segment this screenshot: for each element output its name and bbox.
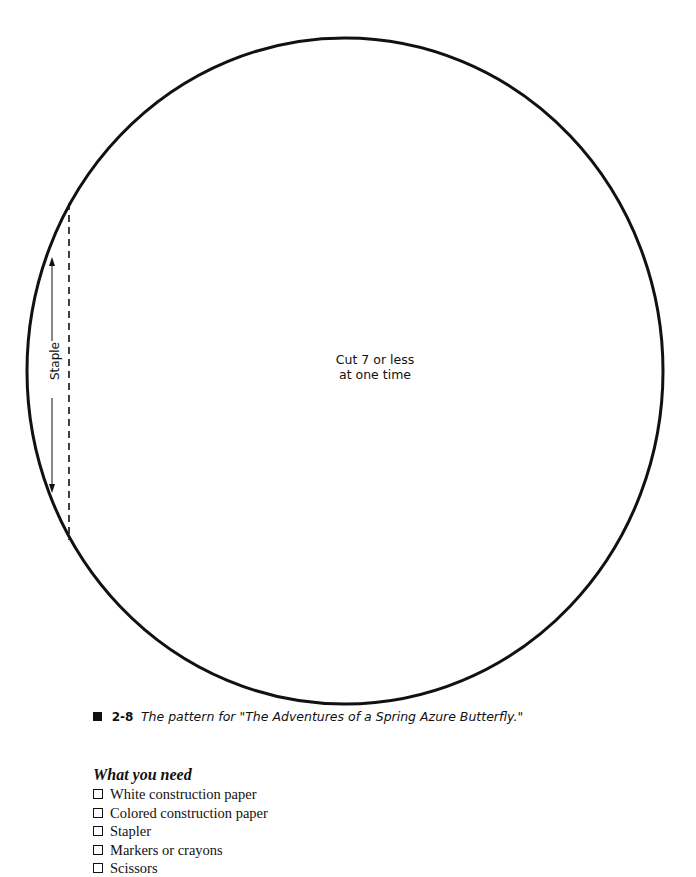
square-bullet-icon (93, 712, 102, 721)
checkbox-icon[interactable] (93, 863, 103, 873)
figure-caption: 2-8 The pattern for "The Adventures of a… (93, 709, 523, 724)
cut-instruction-line-1: Cut 7 or less (300, 352, 450, 367)
checkbox-icon[interactable] (93, 845, 103, 855)
checkbox-icon[interactable] (93, 826, 103, 836)
caption-text: The pattern for "The Adventures of a Spr… (141, 709, 523, 724)
material-item: Scissors (93, 859, 268, 877)
material-item: Markers or crayons (93, 841, 268, 860)
material-item: White construction paper (93, 785, 268, 804)
checkbox-icon[interactable] (93, 808, 103, 818)
cut-instruction: Cut 7 or less at one time (300, 352, 450, 382)
materials-heading: What you need (93, 766, 268, 784)
cut-instruction-line-2: at one time (300, 367, 450, 382)
figure-number: 2-8 (112, 710, 134, 724)
staple-label: Staple (47, 341, 63, 381)
checkbox-icon[interactable] (93, 789, 103, 799)
material-item: Stapler (93, 822, 268, 841)
materials-list: What you need White construction paper C… (93, 766, 268, 877)
material-item: Colored construction paper (93, 804, 268, 823)
